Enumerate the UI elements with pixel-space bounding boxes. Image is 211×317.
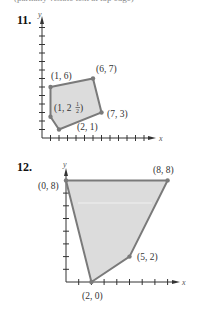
chart-12: y x (0, 8) (8, 8) (5, 2) (2, 0) (0, 0, 211, 317)
x-axis-label-12: x (181, 278, 186, 287)
vertex-label-5-2: (5, 2) (137, 252, 158, 263)
vertex-label-2-0: (2, 0) (82, 291, 103, 302)
feasible-region-12 (66, 180, 168, 282)
y-axis-label-12: y (62, 160, 67, 169)
vertex-label-8-8: (8, 8) (153, 165, 174, 176)
vertex-label-0-8: (0, 8) (38, 181, 59, 192)
